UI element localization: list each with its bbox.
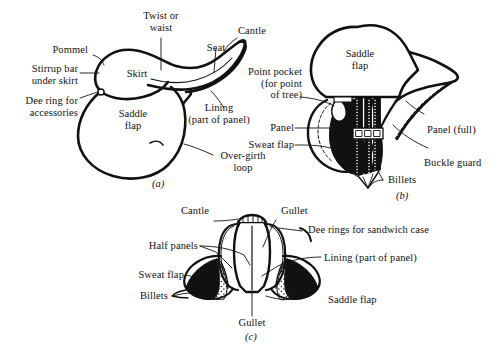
label-panel-full: Panel (full) bbox=[427, 124, 497, 136]
saddle-b-buckle-1 bbox=[356, 131, 362, 137]
label-lining-c: Lining (part of panel) bbox=[324, 252, 494, 264]
label-skirt: Skirt bbox=[111, 68, 163, 80]
label-stirrup-bar: Stirrup bar under skirt bbox=[6, 63, 78, 86]
caption-b: (b) bbox=[396, 190, 408, 201]
label-seat: Seat bbox=[195, 42, 237, 54]
label-saddle-flap-c: Saddle flap bbox=[328, 294, 408, 306]
label-gullet-bottom: Gullet bbox=[228, 317, 276, 329]
panel-a-leader-lines bbox=[80, 38, 237, 155]
label-over-girth-loop: Over-girth loop bbox=[205, 150, 281, 173]
label-billets-b: Billets bbox=[388, 174, 436, 186]
label-buckle-guard: Buckle guard bbox=[424, 157, 502, 169]
panel-c-artwork bbox=[172, 215, 321, 316]
label-pommel: Pommel bbox=[36, 44, 88, 56]
saddle-a-overgirth-loop bbox=[150, 141, 163, 145]
label-gullet-top: Gullet bbox=[281, 205, 329, 217]
label-sweat-flap-b: Sweat flap bbox=[228, 139, 294, 151]
saddle-anatomy-figure: Twist or waist Pommel Seat Cantle Stirru… bbox=[0, 0, 504, 348]
label-panel-b: Panel bbox=[248, 122, 294, 134]
label-dee-rings: Dee rings for sandwich case bbox=[308, 224, 498, 236]
label-half-panels: Half panels bbox=[128, 240, 198, 252]
label-point-pocket: Point pocket (for point of tree) bbox=[236, 66, 302, 101]
saddle-a-flap-outline bbox=[78, 87, 185, 179]
saddle-b-point-pocket bbox=[332, 100, 347, 121]
label-dee-ring: Dee ring for accessories bbox=[2, 95, 78, 118]
saddle-b-point-pocket-top bbox=[334, 97, 352, 102]
label-billets-c: Billets bbox=[122, 290, 168, 302]
label-cantle-a: Cantle bbox=[238, 25, 288, 37]
saddle-b-buckle-2 bbox=[365, 131, 371, 137]
saddle-a-dee-ring bbox=[98, 89, 104, 95]
caption-a: (a) bbox=[152, 178, 164, 189]
label-cantle-c: Cantle bbox=[159, 205, 209, 217]
saddle-b-buckle-3 bbox=[374, 131, 380, 137]
label-twist-or-waist: Twist or waist bbox=[126, 10, 196, 33]
label-saddle-flap-b: Saddle flap bbox=[330, 48, 390, 71]
caption-c: (c) bbox=[245, 331, 257, 342]
label-saddle-flap-a: Saddle flap bbox=[103, 108, 163, 131]
label-sweat-flap-c: Sweat flap bbox=[108, 269, 184, 281]
